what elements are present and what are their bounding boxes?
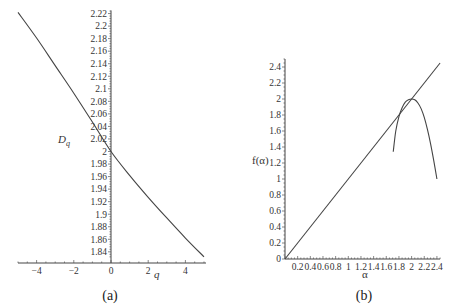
y-axis-title: f(α)	[252, 154, 269, 167]
y-tick-label: 1.6	[269, 126, 281, 136]
x-tick-label: −4	[32, 266, 42, 276]
y-tick-label: 1.2	[269, 158, 281, 168]
y-tick-label: 1.98	[90, 159, 107, 169]
y-tick-label: 1.88	[90, 222, 107, 232]
y-tick-label: 1.92	[90, 197, 107, 207]
caption-b: (b)	[356, 288, 373, 304]
x-tick-label: 1.4	[368, 262, 380, 272]
y-tick-label: 1.84	[90, 247, 107, 257]
y-tick-label: 0.8	[269, 190, 281, 200]
y-tick-label: 2.22	[90, 9, 107, 19]
x-tick-label: 0.4	[304, 262, 316, 272]
series-line-f-alpha	[393, 99, 437, 179]
x-tick-label: 2.4	[431, 262, 443, 272]
x-tick-label: 2	[146, 266, 151, 276]
y-tick-label: 2	[102, 147, 107, 157]
x-tick-label: −2	[69, 266, 79, 276]
chart-b-f-alpha: 0.20.40.60.811.21.41.61.822.22.400.20.40…	[252, 59, 443, 304]
y-axis-title: Dq	[57, 133, 70, 148]
x-tick-label: 2.2	[418, 262, 430, 272]
x-tick-label: 1.8	[393, 262, 405, 272]
y-tick-label: 0.4	[269, 222, 281, 232]
x-axis-title: α	[362, 268, 368, 280]
y-tick-label: 1.9	[95, 210, 107, 220]
x-tick-label: 1.6	[380, 262, 392, 272]
x-tick-label: 0.2	[292, 262, 304, 272]
x-tick-label: 0	[109, 266, 114, 276]
y-tick-label: 1.4	[269, 142, 281, 152]
figure: −4−20241.841.861.881.91.921.941.961.9822…	[0, 0, 449, 306]
y-tick-label: 2.2	[95, 21, 107, 31]
y-tick-label: 0.6	[269, 206, 281, 216]
x-tick-label: 2	[409, 262, 414, 272]
y-tick-label: 1.96	[90, 172, 107, 182]
y-tick-label: 2.18	[90, 34, 107, 44]
caption-a: (a)	[102, 288, 118, 304]
chart-a-dq-vs-q: −4−20241.841.861.881.91.921.941.961.9822…	[18, 9, 206, 304]
y-tick-label: 2.12	[90, 72, 107, 82]
y-tick-label: 2.16	[90, 46, 107, 56]
y-tick-label: 2.08	[90, 97, 107, 107]
y-tick-label: 1.8	[269, 110, 281, 120]
y-tick-label: 2.4	[269, 62, 281, 72]
y-tick-label: 2.14	[90, 59, 107, 69]
y-tick-label: 1.86	[90, 235, 107, 245]
y-tick-label: 2.1	[95, 84, 107, 94]
x-tick-label: 4	[183, 266, 188, 276]
series-line-diagonal	[285, 63, 440, 259]
y-tick-label: 2	[276, 94, 281, 104]
y-tick-label: 2.06	[90, 109, 107, 119]
y-tick-label: 0.2	[269, 238, 281, 248]
x-tick-label: 0.8	[330, 262, 342, 272]
x-tick-label: 1	[346, 262, 351, 272]
y-tick-label: 0	[276, 254, 281, 264]
x-tick-label: 0.6	[317, 262, 329, 272]
y-tick-label: 1	[276, 174, 281, 184]
x-axis-title: q	[154, 268, 160, 280]
y-tick-label: 2.2	[269, 78, 281, 88]
y-tick-label: 1.94	[90, 184, 107, 194]
